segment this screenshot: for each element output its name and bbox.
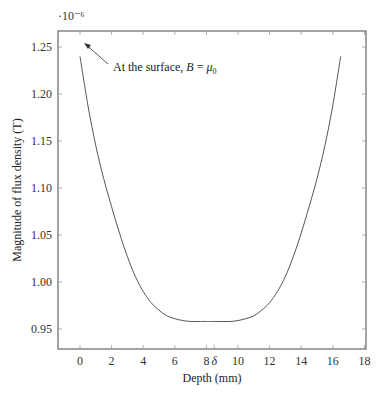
x-tick-label: 8 [203,354,209,368]
x-tick-label: 12 [264,354,276,368]
surface-annotation: At the surface, B = μ0 [84,43,216,76]
delta-tick-label: δ [212,354,218,368]
x-tick-label: 2 [109,354,115,368]
x-tick-label: 18 [358,354,370,368]
x-tick-label: 6 [172,354,178,368]
x-axis-ticks: 024681012141618δ [77,31,370,368]
y-tick-label: 1.20 [31,87,52,101]
flux-density-chart: 024681012141618δ 0.951.001.051.101.151.2… [0,0,386,395]
x-tick-label: 14 [295,354,307,368]
data-line [80,56,341,321]
y-axis-label: Magnitude of flux density (T) [10,118,24,261]
y-tick-label: 1.05 [31,228,52,242]
plot-frame [58,31,366,349]
y-tick-label: 1.00 [31,275,52,289]
y-tick-label: 0.95 [31,322,52,336]
x-tick-label: 10 [232,354,244,368]
x-tick-label: 0 [77,354,83,368]
y-tick-label: 1.15 [31,134,52,148]
annotation-text: At the surface, B = μ0 [113,60,216,76]
x-tick-label: 16 [327,354,339,368]
y-tick-label: 1.25 [31,40,52,54]
x-tick-label: 4 [140,354,146,368]
x-axis-label: Depth (mm) [183,371,242,385]
y-scale-multiplier: ·10⁻⁶ [58,9,85,23]
y-axis-ticks: 0.951.001.051.101.151.201.25 [31,40,366,336]
y-tick-label: 1.10 [31,181,52,195]
